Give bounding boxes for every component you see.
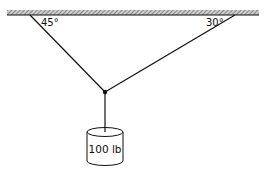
right-angle-label: 30°: [206, 17, 224, 28]
diagram-canvas: 45° 30° 100 lb: [0, 0, 267, 171]
left-angle-label: 45°: [41, 17, 59, 28]
junction-knot: [103, 90, 107, 94]
weight-label: 100 lb: [89, 143, 122, 155]
ceiling: [7, 10, 259, 15]
